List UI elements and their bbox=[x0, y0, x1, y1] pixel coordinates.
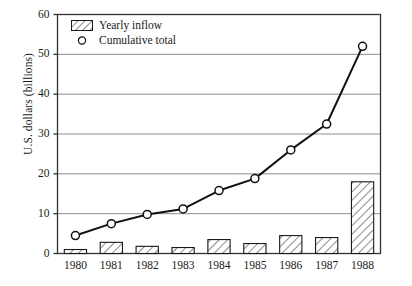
x-tick-label: 1988 bbox=[340, 260, 386, 272]
hatched-rectangle-icon bbox=[70, 20, 94, 31]
legend-item-cumulative-total: Cumulative total bbox=[70, 33, 176, 48]
data-point-marker bbox=[287, 146, 295, 154]
bar bbox=[172, 248, 194, 254]
legend-item-yearly-inflow: Yearly inflow bbox=[70, 18, 176, 33]
y-tick-label: 20 bbox=[20, 168, 50, 180]
y-tick-label: 40 bbox=[20, 88, 50, 100]
data-point-marker bbox=[107, 220, 115, 228]
bar bbox=[316, 238, 338, 254]
open-circle-icon bbox=[70, 35, 94, 46]
bar bbox=[244, 244, 266, 254]
data-point-marker bbox=[251, 175, 259, 183]
line-series-cumulative-total bbox=[75, 46, 362, 235]
chart-legend: Yearly inflow Cumulative total bbox=[70, 18, 176, 48]
data-point-marker bbox=[71, 232, 79, 240]
y-tick-label: 0 bbox=[20, 248, 50, 260]
chart-figure: U.S. dollars (billions) 0102030405060 19… bbox=[0, 0, 412, 286]
y-tick-label: 50 bbox=[20, 48, 50, 60]
data-point-marker bbox=[215, 187, 223, 195]
data-point-marker bbox=[143, 210, 151, 218]
bar bbox=[208, 240, 230, 254]
bar bbox=[136, 246, 158, 253]
bar bbox=[280, 236, 302, 254]
bar bbox=[64, 250, 86, 254]
legend-label-cumulative-total: Cumulative total bbox=[99, 34, 176, 47]
y-tick-label: 30 bbox=[20, 128, 50, 140]
legend-label-yearly-inflow: Yearly inflow bbox=[99, 19, 162, 32]
bar bbox=[351, 182, 373, 254]
data-point-marker bbox=[179, 205, 187, 213]
cumulative-line bbox=[75, 46, 362, 235]
bar bbox=[100, 242, 122, 253]
data-point-marker bbox=[323, 120, 331, 128]
y-tick-label: 60 bbox=[20, 9, 50, 21]
data-point-marker bbox=[359, 42, 367, 50]
y-tick-label: 10 bbox=[20, 208, 50, 220]
line-markers-cumulative-total bbox=[71, 42, 366, 239]
chart-plot-area bbox=[0, 0, 412, 286]
